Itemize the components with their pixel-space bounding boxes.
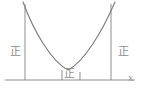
region-label-left: 正 bbox=[10, 46, 21, 57]
parabola-diagram: 正 正 正 x bbox=[0, 0, 141, 97]
parabola-curve-group bbox=[23, 2, 115, 70]
parabola-curve bbox=[23, 2, 115, 70]
x-axis-label: x bbox=[128, 74, 133, 83]
region-label-right: 正 bbox=[118, 46, 129, 57]
region-label-center: 正 bbox=[64, 68, 75, 79]
